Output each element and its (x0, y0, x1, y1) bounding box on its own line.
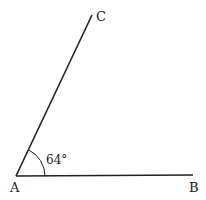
angle-label: 64° (46, 153, 67, 167)
label-c: C (96, 9, 106, 24)
angle-arc (29, 150, 45, 176)
label-a: A (9, 180, 20, 195)
angle-diagram: C 64° A B (0, 0, 206, 200)
ray-ac (16, 15, 92, 176)
ray-ab (16, 175, 193, 176)
label-b: B (189, 180, 199, 195)
